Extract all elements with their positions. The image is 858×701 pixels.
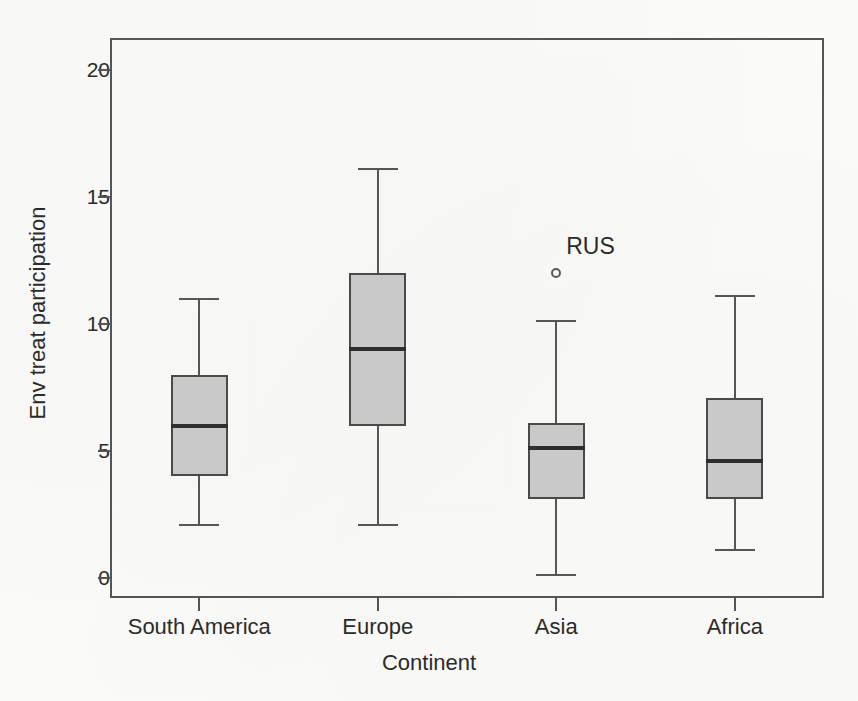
x-axis-tick-mark	[198, 598, 200, 611]
x-axis-tick-mark	[555, 598, 557, 611]
lower-whisker-cap	[358, 524, 398, 526]
upper-whisker-cap	[358, 168, 398, 170]
x-axis-tick-mark	[734, 598, 736, 611]
lower-whisker-line	[198, 476, 200, 524]
x-axis-tick-label-africa: Africa	[605, 614, 858, 640]
box-iqr	[706, 398, 763, 500]
upper-whisker-line	[555, 321, 557, 423]
upper-whisker-line	[377, 169, 379, 273]
lower-whisker-cap	[715, 549, 755, 551]
upper-whisker-cap	[715, 295, 755, 297]
boxplot-figure: Env treat participation 05101520 RUS Sou…	[0, 0, 858, 701]
upper-whisker-line	[734, 296, 736, 398]
median-line	[171, 424, 228, 428]
outlier-label: RUS	[566, 233, 615, 260]
lower-whisker-cap	[536, 574, 576, 576]
lower-whisker-line	[734, 499, 736, 550]
lower-whisker-line	[555, 499, 557, 575]
x-axis-title: Continent	[0, 650, 858, 676]
y-axis-title: Env treat participation	[25, 53, 51, 573]
upper-whisker-cap	[179, 298, 219, 300]
lower-whisker-cap	[179, 524, 219, 526]
upper-whisker-cap	[536, 320, 576, 322]
x-axis-tick-mark	[377, 598, 379, 611]
box-iqr	[528, 423, 585, 499]
median-line	[706, 459, 763, 463]
lower-whisker-line	[377, 426, 379, 525]
median-line	[528, 446, 585, 450]
upper-whisker-line	[198, 299, 200, 375]
median-line	[349, 347, 406, 351]
plot-area-frame	[110, 38, 824, 598]
